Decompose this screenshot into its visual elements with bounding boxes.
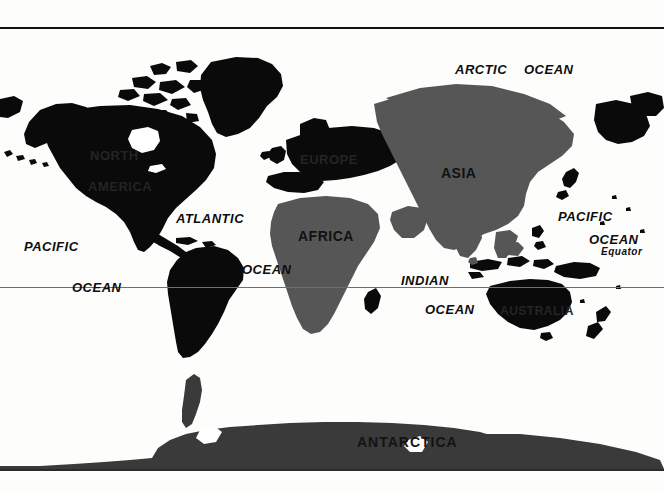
continent-label-north: NORTH: [90, 149, 139, 162]
continent-label-europe: EUROPE: [300, 153, 358, 166]
greenland-shape: [200, 57, 283, 137]
ocean-label-arctic-1: ARCTIC: [455, 63, 507, 76]
equator-label: Equator: [601, 247, 642, 257]
continent-label-africa: AFRICA: [298, 229, 354, 243]
indonesia-shape: [468, 256, 554, 279]
ocean-label-atlantic-1: ATLANTIC: [176, 212, 244, 225]
map-frame-bottom-rule: [0, 469, 664, 471]
world-map-figure: ARCTIC OCEAN ATLANTIC PACIFIC OCEAN OCEA…: [0, 0, 664, 491]
map-plate: [0, 29, 664, 469]
madagascar-shape: [364, 288, 381, 314]
landmass-group-dark-gray: [0, 374, 664, 469]
ocean-label-atlantic-2: OCEAN: [242, 263, 291, 276]
tasmania-shape: [540, 332, 553, 341]
continent-label-australia: AUSTRALIA: [500, 305, 574, 317]
arabia-shape: [390, 206, 428, 238]
ocean-label-pacific-east-1: PACIFIC: [558, 210, 613, 223]
new-guinea-shape: [554, 262, 600, 279]
aleutian-islands-shape: [4, 150, 49, 167]
left-edge-land-shape: [0, 96, 23, 118]
new-zealand-shape: [586, 306, 611, 339]
ocean-label-pacific-west-2: OCEAN: [72, 281, 121, 294]
continent-label-antarctica: ANTARCTICA: [357, 435, 458, 449]
india-shape: [453, 224, 482, 258]
antarctic-peninsula-shape: [182, 374, 202, 428]
philippines-shape: [532, 225, 546, 250]
ocean-label-pacific-west-1: PACIFIC: [24, 240, 79, 253]
continent-label-asia: ASIA: [441, 166, 476, 180]
landmass-layer: [0, 29, 664, 469]
antarctica-right-lobe-shape: [432, 434, 664, 469]
british-isles-shape: [260, 146, 286, 164]
ocean-label-indian-1: INDIAN: [401, 274, 449, 287]
ocean-label-arctic-2: OCEAN: [524, 63, 573, 76]
south-america-shape: [167, 246, 244, 358]
ocean-label-pacific-east-2: OCEAN: [589, 233, 638, 246]
continent-label-america: AMERICA: [88, 180, 152, 193]
japan-shape: [556, 168, 579, 200]
ocean-label-indian-2: OCEAN: [425, 303, 474, 316]
